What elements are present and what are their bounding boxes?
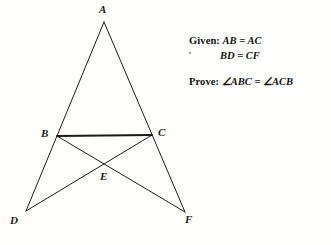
proof-spacer xyxy=(189,63,329,74)
segment-C-D xyxy=(26,135,152,211)
vertex-label-b: B xyxy=(41,128,48,139)
segment-A-F xyxy=(104,22,185,212)
vertex-label-a: A xyxy=(99,4,106,15)
segment-group xyxy=(26,22,185,212)
given-expression-1: AB = AC xyxy=(223,35,262,46)
prove-expression: ∠ABC = ∠ACB xyxy=(222,76,293,87)
geometry-proof-figure: ABCDEF Given: AB = AC BD = CF Prove: ∠AB… xyxy=(0,0,331,245)
given-keyword: Given: xyxy=(189,35,220,46)
prove-keyword: Prove: xyxy=(189,76,219,87)
vertex-label-c: C xyxy=(158,127,165,138)
segment-A-D xyxy=(26,22,104,211)
given-line-2: BD = CF xyxy=(189,48,329,63)
segment-B-F xyxy=(57,136,185,212)
vertex-label-d: D xyxy=(10,215,18,226)
vertex-label-e: E xyxy=(100,171,107,182)
vertex-label-f: F xyxy=(185,214,192,225)
proof-text-block: Given: AB = AC BD = CF Prove: ∠ABC = ∠AC… xyxy=(189,33,329,89)
given-expression-2: BD = CF xyxy=(220,50,260,61)
segment-B-C xyxy=(57,135,152,136)
prove-line: Prove: ∠ABC = ∠ACB xyxy=(189,74,329,89)
given-line-1: Given: AB = AC xyxy=(189,33,329,48)
scan-speck-artifact xyxy=(189,52,191,54)
